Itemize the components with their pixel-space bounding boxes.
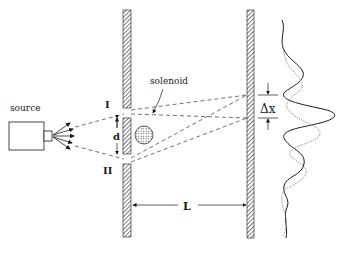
slit-separation-label: d [113, 131, 120, 142]
slit-1-label: I [105, 99, 110, 110]
barrier-middle [123, 118, 131, 154]
interference-pattern-original [282, 20, 335, 238]
source-nozzle [44, 131, 52, 141]
barrier-bottom [123, 164, 131, 237]
double-slit-barrier [123, 10, 131, 237]
aharonov-bohm-diagram: source I II d solenoid [0, 0, 355, 256]
solenoid-pointer-arrow [153, 89, 163, 113]
solenoid-label: solenoid [150, 76, 188, 86]
emission-arrows-icon [53, 123, 74, 149]
solenoid-icon [135, 126, 153, 144]
slit-2-label: II [103, 165, 113, 176]
distance-label: L [183, 200, 191, 213]
detection-screen [247, 10, 254, 238]
source-label: source [10, 103, 41, 113]
barrier-top [123, 10, 131, 108]
source-box [9, 122, 44, 150]
fringe-shift-label: Δx [260, 102, 276, 116]
source-device [9, 122, 52, 150]
